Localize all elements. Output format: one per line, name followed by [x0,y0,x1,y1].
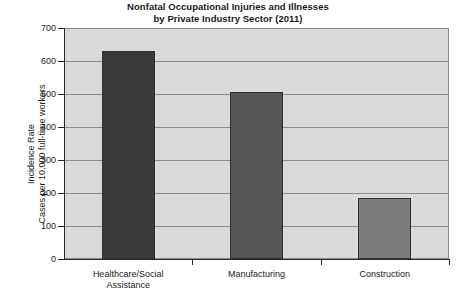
bar-chart: Nonfatal Occupational Injuries and Illne… [0,0,456,299]
x-axis-tick [192,259,193,265]
y-axis-title-line-1: Incidence Rate [26,54,37,254]
y-axis-tick-label: 0 [4,254,56,264]
y-axis-tick [58,94,64,95]
x-axis-line [64,259,450,260]
y-axis-tick [58,193,64,194]
y-axis-tick [58,259,64,260]
chart-title-line-2: by Private Industry Sector (2011) [0,13,456,25]
x-axis-tick [321,259,322,265]
x-axis-tick [449,259,450,265]
y-axis-tick [58,61,64,62]
y-axis-tick [58,127,64,128]
x-axis-tick-label-line-1: Construction [360,269,411,279]
y-axis-tick-label: 700 [4,23,56,33]
y-axis-tick [58,226,64,227]
y-axis-tick [58,160,64,161]
x-axis-tick-label: Healthcare/SocialAssistance [58,269,198,291]
bar [230,92,283,259]
x-axis-tick-label-line-1: Healthcare/Social [93,269,164,279]
y-axis-tick [58,28,64,29]
x-axis-tick-label: Construction [315,269,455,280]
x-axis-tick-label-line-1: Manufacturing [228,269,285,279]
chart-title: Nonfatal Occupational Injuries and Illne… [0,1,456,24]
y-axis-line [64,28,65,260]
y-axis-title: Incidence Rate Cases per 10,000 full-tim… [26,54,48,254]
chart-title-line-1: Nonfatal Occupational Injuries and Illne… [127,1,329,12]
bar [102,51,155,259]
bar [358,198,411,259]
x-axis-tick-label: Manufacturing [187,269,327,280]
y-axis-title-line-2: Cases per 10,000 full-time workers [37,54,48,254]
x-axis-tick-label-line-2: Assistance [58,280,198,291]
